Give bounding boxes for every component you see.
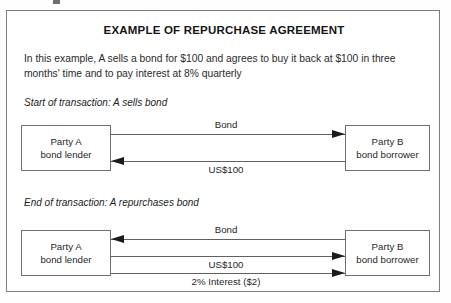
arrow-head-s2-interest-right [332,269,345,277]
figure-title: EXAMPLE OF REPURCHASE AGREEMENT [7,24,441,36]
flow-line-s1-cash [111,161,345,162]
figure-frame: EXAMPLE OF REPURCHASE AGREEMENT In this … [6,10,440,292]
flow-label-s2-cash: US$100 [171,259,281,270]
party-box-s2-right-line2: bond borrower [356,253,418,266]
flow-label-s1-cash: US$100 [171,164,281,175]
party-box-s1-right: Party B bond borrower [345,125,430,171]
figure-page: EXAMPLE OF REPURCHASE AGREEMENT In this … [0,0,451,303]
party-box-s2-left-line1: Party A [50,240,81,253]
party-box-s1-left: Party A bond lender [21,125,111,171]
party-box-s1-right-line2: bond borrower [356,148,418,161]
section-caption-start: Start of transaction: A sells bond [24,97,167,108]
party-box-s2-left-line2: bond lender [40,253,91,266]
flow-line-s2-cash [111,256,345,257]
arrow-head-s2-bond-left [111,235,124,243]
party-box-s2-right: Party B bond borrower [345,230,430,276]
flow-label-s2-bond: Bond [171,224,281,235]
figure-intro-text: In this example, A sells a bond for $100… [24,52,424,81]
party-box-s1-left-line1: Party A [50,135,81,148]
arrow-head-s1-cash-left [111,157,124,165]
flow-line-s2-interest [111,273,345,274]
flow-label-s1-bond: Bond [171,119,281,130]
party-box-s2-left: Party A bond lender [21,230,111,276]
scan-artifact-speck [53,0,60,4]
arrow-head-s1-bond-right [332,130,345,138]
section-caption-end: End of transaction: A repurchases bond [24,197,199,208]
party-box-s1-left-line2: bond lender [40,148,91,161]
party-box-s2-right-line1: Party B [372,240,404,253]
flow-line-s1-bond [111,134,345,135]
party-box-s1-right-line1: Party B [372,135,404,148]
flow-line-s2-bond [111,239,345,240]
arrow-head-s2-cash-right [332,252,345,260]
flow-label-s2-interest: 2% Interest ($2) [161,276,291,287]
